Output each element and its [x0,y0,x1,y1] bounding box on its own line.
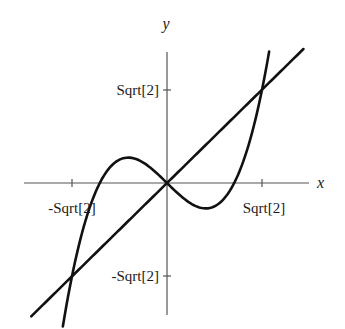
x-tick-label-pos: Sqrt[2] [243,200,286,216]
y-tick-label-neg: -Sqrt[2] [112,268,160,284]
y-tick-label-pos: Sqrt[2] [117,82,160,98]
cubic-curve [63,52,269,327]
y-axis-label: y [160,15,170,33]
x-tick-label-neg: -Sqrt[2] [48,200,96,216]
plot: y x -Sqrt[2] Sqrt[2] Sqrt[2] -Sqrt[2] [0,0,345,329]
x-axis-label: x [316,174,324,191]
